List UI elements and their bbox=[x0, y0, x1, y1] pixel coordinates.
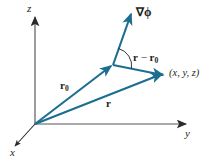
y-axis-label: y bbox=[185, 128, 190, 139]
vector-r0 bbox=[35, 66, 111, 124]
field-point-label: (x, y, z) bbox=[169, 68, 199, 79]
z-axis-label: z bbox=[27, 3, 31, 14]
diagram-canvas bbox=[0, 0, 212, 162]
vector-r-minus-r0 bbox=[113, 65, 163, 75]
x-axis bbox=[15, 124, 35, 146]
vector-r bbox=[35, 74, 162, 124]
vector-gradient bbox=[113, 14, 131, 65]
gradient-vector-figure: z y x ∇ϕ r − r0 r0 r (x, y, z) bbox=[0, 0, 212, 162]
r0-label: r0 bbox=[60, 80, 69, 92]
r-label: r bbox=[106, 98, 111, 109]
x-axis-label: x bbox=[10, 147, 15, 158]
gradient-vector-label: ∇ϕ bbox=[136, 6, 152, 18]
r-minus-r0-label: r − r0 bbox=[133, 52, 158, 64]
